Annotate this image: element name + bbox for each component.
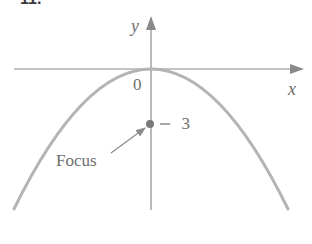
- y-axis-label: y: [131, 17, 139, 35]
- origin-label: 0: [133, 76, 142, 93]
- focus-value-digit: 3: [182, 114, 191, 133]
- focus-value-label: −3: [172, 115, 190, 132]
- x-axis-label: x: [288, 80, 296, 98]
- focus-label: Focus: [56, 152, 97, 169]
- diagram-canvas: [0, 0, 312, 244]
- focus-point: [146, 120, 154, 128]
- parabola-diagram: 11. y x 0 −3 Focus: [0, 0, 312, 244]
- focus-pointer-arrow: [111, 128, 145, 153]
